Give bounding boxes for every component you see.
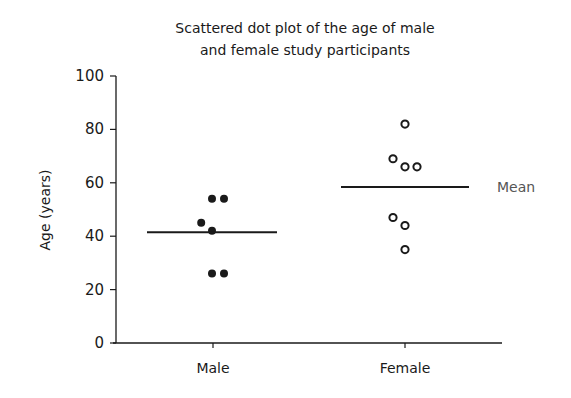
data-point <box>389 214 396 221</box>
x-category-label-female: Female <box>380 360 431 376</box>
chart-title-line-2: and female study participants <box>200 42 410 58</box>
y-tick-label: 20 <box>85 281 104 299</box>
y-tick-label: 100 <box>75 67 104 85</box>
data-point <box>208 270 216 278</box>
x-axis: MaleFemale <box>113 343 502 376</box>
y-axis: 020406080100 <box>75 67 116 352</box>
data-point <box>401 120 408 127</box>
data-points <box>197 120 420 277</box>
y-tick-label: 0 <box>94 334 104 352</box>
series-male <box>197 195 228 278</box>
data-point <box>208 227 216 235</box>
data-point <box>401 246 408 253</box>
y-tick-label: 60 <box>85 174 104 192</box>
mean-lines <box>147 187 469 232</box>
data-point <box>197 219 205 227</box>
y-axis-label: Age (years) <box>37 170 53 251</box>
x-category-label-male: Male <box>196 360 229 376</box>
data-point <box>220 270 228 278</box>
dot-plot-chart: Scattered dot plot of the age of male an… <box>0 0 571 398</box>
data-point <box>208 195 216 203</box>
data-point <box>401 163 408 170</box>
data-point <box>389 155 396 162</box>
y-tick-label: 40 <box>85 227 104 245</box>
data-point <box>413 163 420 170</box>
data-point <box>401 222 408 229</box>
mean-annotation: Mean <box>497 179 535 195</box>
data-point <box>220 195 228 203</box>
chart-title-line-1: Scattered dot plot of the age of male <box>175 20 434 36</box>
y-tick-label: 80 <box>85 120 104 138</box>
